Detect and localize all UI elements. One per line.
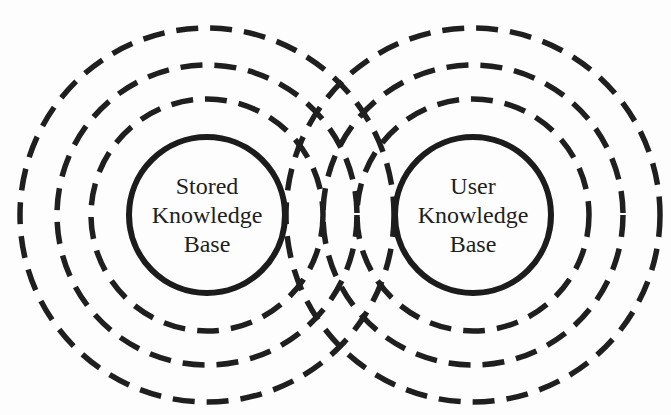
user-knowledge-base-label: User Knowledge Base	[398, 172, 548, 259]
circles-layer	[0, 0, 671, 415]
stored-knowledge-base-label: Stored Knowledge Base	[132, 172, 282, 259]
label-line: Base	[398, 230, 548, 259]
label-line: Knowledge	[132, 201, 282, 230]
label-line: Stored	[132, 172, 282, 201]
knowledge-base-diagram: Stored Knowledge Base User Knowledge Bas…	[0, 0, 671, 415]
label-line: User	[398, 172, 548, 201]
label-line: Base	[132, 230, 282, 259]
label-line: Knowledge	[398, 201, 548, 230]
